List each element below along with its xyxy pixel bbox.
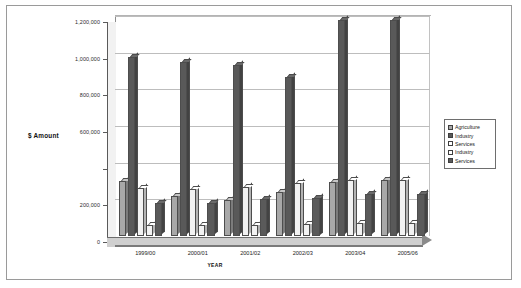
bar-2005-06-services-4[interactable]	[417, 194, 424, 236]
bar-face	[119, 181, 126, 236]
bar-side-face	[267, 195, 270, 234]
bar-2003-04-industry-1[interactable]	[338, 20, 345, 236]
x-axis-title: YEAR	[0, 262, 430, 268]
bar-face	[390, 20, 397, 236]
x-axis-category-label: 2003/04	[333, 250, 377, 256]
bar-2003-04-services-4[interactable]	[365, 194, 372, 236]
bar-face	[356, 223, 363, 236]
gridline	[115, 16, 430, 17]
bar-face	[251, 225, 258, 236]
bar-face	[128, 57, 135, 236]
gridline	[115, 53, 430, 54]
bar-face	[365, 194, 372, 236]
bar-face	[417, 194, 424, 236]
legend-item-0[interactable]: Agriculture	[448, 123, 492, 131]
legend-swatch-icon	[448, 125, 453, 130]
bar-face	[155, 203, 162, 236]
bar-2002-03-agriculture-0[interactable]	[276, 192, 283, 236]
bar-1999-00-industry-3[interactable]	[146, 225, 153, 236]
bar-2002-03-industry-1[interactable]	[285, 77, 292, 236]
bar-2005-06-industry-1[interactable]	[390, 20, 397, 236]
bar-2002-03-industry-3[interactable]	[303, 224, 310, 236]
legend-item-1[interactable]: Industry	[448, 131, 492, 139]
x-axis-category-label: 2002/03	[281, 250, 325, 256]
bar-face	[381, 180, 388, 236]
gridline	[115, 163, 430, 164]
bar-face	[233, 65, 240, 236]
chart-legend[interactable]: AgricultureIndustryServicesIndustryServi…	[444, 119, 496, 169]
bar-2000-01-services-4[interactable]	[207, 203, 214, 236]
y-axis-tick-label: 800,000	[52, 92, 100, 98]
bar-face	[180, 62, 187, 236]
bar-side-face	[320, 193, 323, 234]
bar-2002-03-services-4[interactable]	[312, 198, 319, 237]
y-axis-title: $ Amount	[28, 132, 59, 139]
bar-2001-02-industry-3[interactable]	[251, 225, 258, 236]
bar-face	[408, 223, 415, 236]
y-axis-line	[107, 22, 108, 243]
bar-2001-02-industry-1[interactable]	[233, 65, 240, 236]
bar-face	[137, 188, 144, 236]
bar-1999-00-industry-1[interactable]	[128, 57, 135, 236]
bar-2001-02-agriculture-0[interactable]	[224, 200, 231, 236]
bar-face	[207, 203, 214, 236]
bar-1999-00-agriculture-0[interactable]	[119, 181, 126, 236]
bar-2001-02-services-4[interactable]	[260, 199, 267, 236]
bar-2000-01-industry-3[interactable]	[198, 225, 205, 236]
bar-2003-04-services-2[interactable]	[347, 180, 354, 236]
y-axis-tick-label: 1,000,000	[52, 56, 100, 62]
y-axis-tick-label: 1,200,000	[52, 19, 100, 25]
bar-face	[347, 180, 354, 236]
bar-face	[189, 189, 196, 236]
x-axis-category-label: 1999/00	[123, 250, 167, 256]
bar-side-face	[215, 199, 218, 234]
x-axis-category-label: 2000/01	[176, 250, 220, 256]
bar-1999-00-services-2[interactable]	[137, 188, 144, 236]
bar-face	[312, 198, 319, 237]
plot-depth-wall	[107, 22, 116, 237]
legend-item-3[interactable]: Industry	[448, 148, 492, 156]
bar-2005-06-agriculture-0[interactable]	[381, 180, 388, 236]
legend-item-4[interactable]: Services	[448, 157, 492, 165]
bar-face	[276, 192, 283, 236]
bar-2003-04-industry-3[interactable]	[356, 223, 363, 236]
bar-2005-06-industry-3[interactable]	[408, 223, 415, 236]
bar-2000-01-services-2[interactable]	[189, 189, 196, 236]
bar-face	[146, 225, 153, 236]
gridline	[115, 126, 430, 127]
bar-2002-03-services-2[interactable]	[294, 183, 301, 236]
gridline	[115, 89, 430, 90]
x-axis-category-label: 2005/06	[386, 250, 430, 256]
legend-swatch-icon	[448, 150, 453, 155]
bar-side-face	[372, 190, 375, 234]
legend-swatch-icon	[448, 141, 453, 146]
legend-item-label: Agriculture	[455, 124, 480, 130]
legend-item-label: Services	[455, 141, 475, 147]
bar-2001-02-services-2[interactable]	[242, 187, 249, 236]
chart-plot-area: 0200,000600,000800,0001,000,0001,200,000…	[0, 0, 521, 288]
x-axis-category-label: 2001/02	[228, 250, 272, 256]
legend-item-label: Industry	[455, 149, 473, 155]
bar-1999-00-services-4[interactable]	[155, 203, 162, 236]
bar-face	[285, 77, 292, 236]
bar-face	[260, 199, 267, 236]
legend-swatch-icon	[448, 133, 453, 138]
bar-2003-04-agriculture-0[interactable]	[329, 182, 336, 236]
y-axis-tick-label: 600,000	[52, 129, 100, 135]
bar-2000-01-industry-1[interactable]	[180, 62, 187, 236]
bar-2000-01-agriculture-0[interactable]	[171, 196, 178, 236]
bar-face	[171, 196, 178, 236]
bar-face	[224, 200, 231, 236]
chart-floor-front-edge	[115, 245, 423, 247]
legend-item-2[interactable]: Services	[448, 140, 492, 148]
bar-face	[198, 225, 205, 236]
y-axis-tick-label: 200,000	[52, 202, 100, 208]
bar-face	[294, 183, 301, 236]
bar-face	[303, 224, 310, 236]
bar-side-face	[425, 190, 428, 234]
bar-2005-06-services-2[interactable]	[399, 180, 406, 236]
y-axis-tick-label: 0	[52, 239, 100, 245]
bar-face	[399, 180, 406, 236]
legend-item-label: Industry	[455, 133, 473, 139]
legend-swatch-icon	[448, 158, 453, 163]
